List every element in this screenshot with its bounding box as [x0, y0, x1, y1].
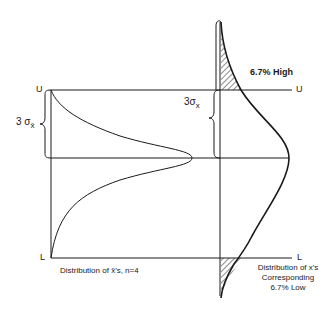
- right-sigma-subscript: x: [196, 101, 200, 110]
- high-tail-label: 6.7% High: [250, 67, 293, 77]
- left-sigma-subscript: x̄: [31, 121, 35, 130]
- right-panel: [209, 21, 289, 298]
- right-brace: [209, 90, 220, 158]
- left-caption: Distribution of x̄'s, n=4: [60, 266, 139, 276]
- left-sigma-text: 3 σ: [16, 116, 31, 127]
- sample-means-distribution-curve: [51, 90, 192, 258]
- right-sigma-label: 3σx: [184, 97, 200, 111]
- left-sigma-label: 3 σx̄: [16, 117, 35, 131]
- left-lower-limit-label: L: [40, 252, 45, 262]
- right-caption-line-2: Corresponding: [248, 273, 328, 283]
- left-upper-limit-label: U: [36, 84, 43, 94]
- low-tail-hatched-area: [221, 258, 243, 296]
- right-caption-line-1: Distribution of x's: [248, 263, 328, 273]
- right-sigma-text: 3σ: [184, 96, 196, 107]
- right-lower-limit-label: L: [297, 252, 302, 262]
- individuals-distribution-curve: [221, 22, 289, 298]
- left-brace: [40, 90, 51, 158]
- right-caption-line-3: 6.7% Low: [248, 283, 328, 293]
- right-upper-limit-label: U: [296, 84, 303, 94]
- high-tail-hatched-area: [221, 26, 241, 90]
- right-caption: Distribution of x's Corresponding 6.7% L…: [248, 263, 328, 293]
